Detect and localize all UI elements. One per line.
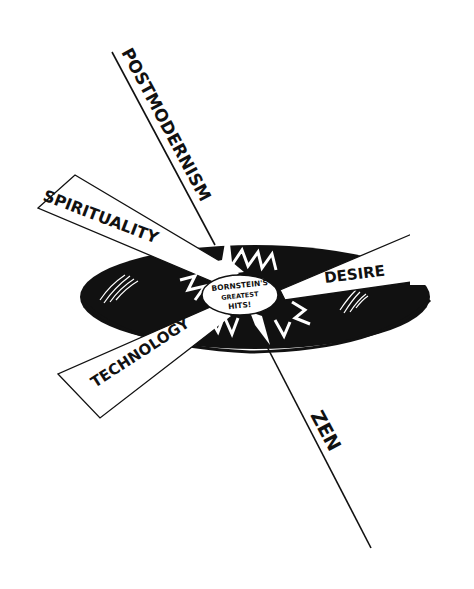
label-postmodernism: POSTMODERNISM xyxy=(117,44,215,204)
label-zen: ZEN xyxy=(306,407,345,455)
record-label: BORNSTEIN'S GREATEST HITS! xyxy=(202,275,278,315)
illustration-canvas: BORNSTEIN'S GREATEST HITS! POSTMODERNISM… xyxy=(0,0,474,589)
